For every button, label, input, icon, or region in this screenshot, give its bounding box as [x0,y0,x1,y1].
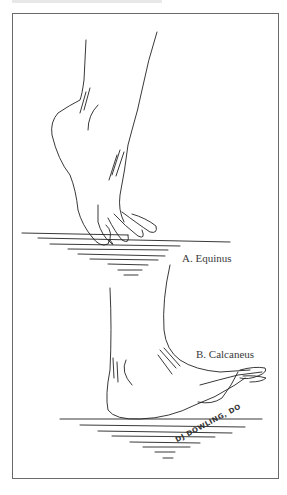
calcaneus-foot-drawing [107,265,266,419]
foot-illustration [0,0,287,495]
panel-b-label: B. Calcaneus [196,348,254,360]
equinus-foot-drawing [52,32,157,245]
calcaneus-ground-lines [60,419,262,458]
panel-a-label: A. Equinus [182,252,232,264]
